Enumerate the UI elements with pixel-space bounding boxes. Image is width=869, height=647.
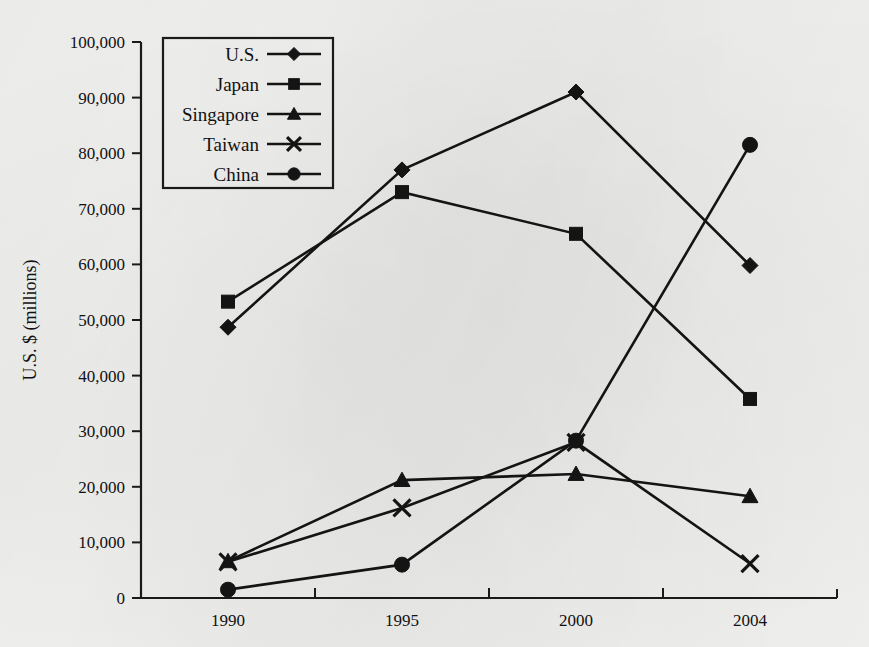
series-singapore xyxy=(220,466,758,568)
y-axis-tick-label: 60,000 xyxy=(78,255,125,274)
y-axis-title-text: U.S. $ (millions) xyxy=(20,259,41,380)
series-japan xyxy=(222,186,757,406)
data-series-layer xyxy=(220,84,759,597)
marker-circle xyxy=(743,137,758,152)
y-axis-tick-label: 40,000 xyxy=(78,367,125,386)
marker-square xyxy=(570,227,583,240)
line-chart: 010,00020,00030,00040,00050,00060,00070,… xyxy=(0,0,869,647)
legend-item-taiwan[interactable]: Taiwan xyxy=(203,134,321,155)
y-axis-tick-label: 80,000 xyxy=(78,144,125,163)
legend-item-singapore[interactable]: Singapore xyxy=(182,104,321,125)
marker-square xyxy=(222,295,235,308)
y-axis-tick-label: 70,000 xyxy=(78,200,125,219)
marker-diamond xyxy=(287,47,300,60)
marker-square xyxy=(396,186,409,199)
y-axis-title: U.S. $ (millions) xyxy=(20,259,41,380)
axis-lines xyxy=(141,42,837,598)
marker-x xyxy=(742,555,759,572)
marker-circle xyxy=(221,582,236,597)
series-line xyxy=(228,92,750,327)
legend-item-label: China xyxy=(214,164,260,185)
y-axis-tick-label: 90,000 xyxy=(78,89,125,108)
marker-x xyxy=(394,499,411,516)
series-line xyxy=(228,145,750,590)
x-axis-tick-label: 1990 xyxy=(211,611,245,630)
legend-item-label: U.S. xyxy=(225,44,259,65)
y-axis-tick-label: 50,000 xyxy=(78,311,125,330)
chart-canvas: 010,00020,00030,00040,00050,00060,00070,… xyxy=(0,0,869,647)
marker-square xyxy=(744,392,757,405)
x-axis-tick-label: 2000 xyxy=(559,611,593,630)
legend-item-label: Japan xyxy=(216,74,260,95)
marker-circle xyxy=(288,168,300,180)
y-axis-tick-label: 10,000 xyxy=(78,533,125,552)
x-axis-tick-label: 1995 xyxy=(385,611,419,630)
series-line xyxy=(228,474,750,561)
marker-circle xyxy=(569,433,584,448)
legend-item-label: Taiwan xyxy=(203,134,259,155)
legend-item-label: Singapore xyxy=(182,104,259,125)
y-axis-tick-label: 0 xyxy=(117,589,126,608)
legend-item-us[interactable]: U.S. xyxy=(225,44,321,65)
y-axis-tick-label: 30,000 xyxy=(78,422,125,441)
series-line xyxy=(228,192,750,399)
chart-legend: U.S.JapanSingaporeTaiwanChina xyxy=(163,38,333,188)
x-axis-tick-label: 2004 xyxy=(733,611,768,630)
y-axis-tick-labels: 010,00020,00030,00040,00050,00060,00070,… xyxy=(70,33,125,608)
series-us xyxy=(220,84,758,335)
legend-item-japan[interactable]: Japan xyxy=(216,74,321,95)
marker-square xyxy=(289,79,300,90)
legend-item-china[interactable]: China xyxy=(214,164,321,185)
y-axis-tick-label: 100,000 xyxy=(70,33,125,52)
y-axis-tick-label: 20,000 xyxy=(78,478,125,497)
x-axis-tick-labels: 1990199520002004 xyxy=(211,611,768,630)
marker-circle xyxy=(395,557,410,572)
